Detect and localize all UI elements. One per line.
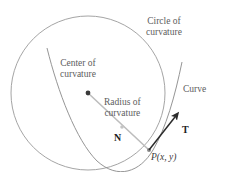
label-radius-of-curvature: Radius of curvature (104, 97, 141, 118)
label-normal-vector: N (114, 133, 121, 144)
label-curve: Curve (183, 84, 206, 95)
label-circle-of-curvature: Circle of curvature (146, 16, 182, 37)
center-of-curvature-dot (86, 91, 91, 96)
tangent-vector (149, 117, 175, 150)
label-point-p: P(x, y) (151, 152, 176, 163)
curvature-diagram: Circle of curvature Center of curvature … (0, 0, 225, 172)
label-center-of-curvature: Center of curvature (60, 58, 96, 79)
normal-marker-dot (120, 125, 124, 129)
label-tangent-vector: T (182, 125, 189, 136)
